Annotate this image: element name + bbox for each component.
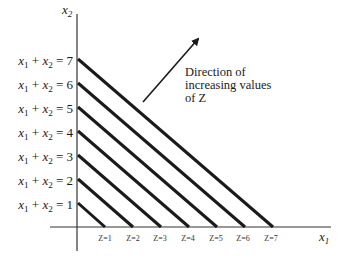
equation-label-7: x1 + x2 = 7	[17, 53, 73, 70]
z-label-1: Z=1	[98, 234, 111, 243]
z-label-6: Z=6	[236, 234, 249, 243]
y-axis-label: x2	[61, 2, 73, 19]
annotation-line-1: Direction of	[185, 65, 247, 79]
annotation-line-2: increasing values	[185, 78, 272, 92]
iso-line-1	[78, 203, 105, 227]
iso-line-2	[78, 179, 133, 227]
direction-annotation: Direction of increasing values of Z	[185, 65, 272, 105]
equation-label-3: x1 + x2 = 3	[17, 149, 73, 166]
iso-line-4	[78, 131, 189, 227]
iso-line-5	[78, 107, 217, 227]
z-label-4: Z=4	[181, 234, 194, 243]
z-labels: Z=1 Z=2 Z=3 Z=4 Z=5 Z=6 Z=7	[98, 234, 277, 243]
equation-labels: x1 + x2 = 7 x1 + x2 = 6 x1 + x2 = 5 x1 +…	[17, 53, 73, 214]
z-label-5: Z=5	[209, 234, 222, 243]
iso-line-6	[78, 83, 245, 227]
z-label-7: Z=7	[264, 234, 277, 243]
z-label-2: Z=2	[126, 234, 139, 243]
equation-label-4: x1 + x2 = 4	[17, 125, 73, 142]
equation-label-5: x1 + x2 = 5	[17, 101, 73, 118]
x-axis-label: x1	[318, 229, 329, 246]
equation-label-1: x1 + x2 = 1	[17, 197, 73, 214]
z-label-3: Z=3	[153, 234, 166, 243]
isoprofit-diagram: x2 x1 x1 + x2 = 7 x1 + x2 = 6 x1 + x2 = …	[0, 0, 341, 259]
equation-label-2: x1 + x2 = 2	[17, 173, 73, 190]
equation-label-6: x1 + x2 = 6	[17, 77, 73, 94]
annotation-line-3: of Z	[185, 91, 206, 105]
